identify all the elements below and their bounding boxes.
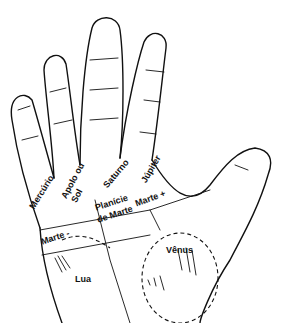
hand-drawing xyxy=(0,0,284,323)
label-venus: Vênus xyxy=(166,246,193,255)
label-lua: Lua xyxy=(75,275,91,284)
thumb xyxy=(152,148,271,323)
middle-finger xyxy=(80,18,123,165)
index-finger xyxy=(120,33,166,160)
